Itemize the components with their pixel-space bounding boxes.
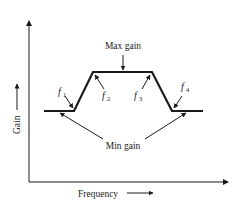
svg-text:2: 2	[107, 95, 110, 102]
x-axis-label: Frequency	[78, 189, 118, 199]
svg-text:f: f	[58, 86, 62, 97]
svg-text:f: f	[181, 81, 185, 92]
min-gain-label: Min gain	[106, 141, 141, 151]
min-gain-arrow-right	[145, 113, 186, 139]
svg-text:f: f	[102, 90, 106, 101]
f3-label: f 3	[134, 90, 142, 102]
svg-text:4: 4	[186, 86, 190, 93]
f3-arrow	[142, 75, 150, 89]
svg-text:1: 1	[63, 91, 66, 98]
y-axis-label: Gain	[12, 115, 22, 134]
min-gain-arrow-left	[60, 113, 103, 139]
f2-label: f 2	[102, 90, 110, 102]
max-gain-label: Max gain	[105, 41, 141, 51]
f4-label: f 4	[181, 81, 190, 93]
f4-arrow	[174, 96, 182, 108]
f2-arrow	[95, 75, 104, 89]
f1-label: f 1	[58, 86, 66, 98]
gain-frequency-diagram: Max gain Min gain f 1 f 2 f 3 f 4 Freque…	[0, 0, 237, 204]
svg-text:3: 3	[139, 95, 142, 102]
svg-text:f: f	[134, 90, 138, 101]
gain-curve	[44, 72, 203, 111]
